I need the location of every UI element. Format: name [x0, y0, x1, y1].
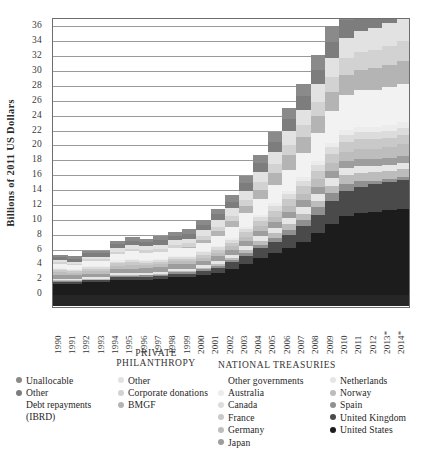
- stacked-column: [139, 239, 154, 296]
- stacked-column: [182, 229, 197, 295]
- legend-header-private: PRIVATE PHILANTHROPY: [110, 348, 202, 368]
- area-segment: [168, 294, 183, 306]
- legend-column-governments-a: Other governmentsAustraliaCanadaFranceGe…: [218, 374, 304, 448]
- area-segment: [139, 294, 154, 306]
- y-tick-30: 30: [2, 65, 42, 75]
- y-tick-18: 18: [2, 154, 42, 164]
- area-segment: [397, 180, 410, 209]
- y-tick-4: 4: [2, 258, 42, 268]
- area-segment: [82, 294, 97, 306]
- area-segment: [325, 92, 340, 111]
- legend-item[interactable]: Other governments: [218, 374, 304, 386]
- stacked-column: [67, 256, 82, 295]
- legend-swatch-icon: [16, 390, 22, 396]
- area-segment: [268, 185, 283, 204]
- area-segment: [239, 176, 254, 183]
- area-segment: [382, 65, 397, 87]
- area-segment: [368, 50, 383, 68]
- area-segment: [368, 149, 383, 159]
- area-segment: [282, 248, 297, 295]
- area-segment: [125, 251, 140, 258]
- legend-item[interactable]: Unallocable: [16, 374, 91, 386]
- stacked-column: [253, 155, 268, 295]
- area-segment: [339, 58, 354, 74]
- area-segment: [354, 52, 369, 69]
- area-segment: [268, 132, 283, 142]
- area-segment: [397, 294, 410, 306]
- legend-item[interactable]: Spain: [330, 399, 406, 411]
- area-segment: [339, 75, 354, 95]
- area-segment: [325, 111, 340, 143]
- legend-item[interactable]: Norway: [330, 386, 406, 398]
- area-segment: [196, 275, 211, 295]
- area-segment: [311, 179, 326, 186]
- legend-item[interactable]: Other: [118, 374, 208, 386]
- stacked-column: [296, 84, 311, 295]
- area-segment: [311, 194, 326, 201]
- area-segment: [239, 213, 254, 226]
- area-segment: [67, 284, 82, 295]
- legend-item-label: Other: [26, 387, 48, 398]
- area-segment: [211, 273, 226, 295]
- legend-item[interactable]: United States: [330, 424, 406, 436]
- area-segment: [296, 137, 311, 153]
- stacked-column: [368, 18, 383, 295]
- area-segment: [296, 153, 311, 178]
- area-segment: [296, 194, 311, 201]
- legend-item[interactable]: United Kingdom: [330, 411, 406, 423]
- y-tick-2: 2: [2, 273, 42, 283]
- area-segment: [368, 28, 383, 50]
- legend-item-label: Spain: [340, 399, 362, 410]
- area-segment: [282, 119, 297, 131]
- legend-item[interactable]: Japan: [218, 436, 304, 448]
- area-segment: [325, 26, 340, 42]
- area-segment: [368, 294, 383, 306]
- area-segment: [368, 68, 383, 90]
- area-segment: [339, 20, 354, 37]
- area-segment: [339, 161, 354, 168]
- legend-item-label: Australia: [228, 387, 264, 398]
- area-segment: [397, 169, 410, 177]
- area-segment: [311, 187, 326, 194]
- area-segment: [354, 166, 369, 173]
- area-segment: [368, 90, 383, 127]
- area-segment: [354, 173, 369, 181]
- area-segment: [282, 235, 297, 248]
- area-segment: [239, 264, 254, 295]
- plot-frame: [52, 18, 410, 308]
- area-segment: [253, 163, 268, 172]
- area-segment: [339, 175, 354, 183]
- area-segment: [382, 210, 397, 295]
- y-tick-12: 12: [2, 199, 42, 209]
- legend-item[interactable]: Germany: [218, 424, 304, 436]
- legend-item[interactable]: Canada: [218, 399, 304, 411]
- area-segment: [182, 294, 197, 306]
- legend-item[interactable]: Other: [16, 386, 91, 398]
- area-segment: [368, 184, 383, 212]
- area-segment: [325, 42, 340, 58]
- legend-header-treasuries-line2: NATIONAL TREASURIES: [214, 360, 340, 370]
- area-segment: [354, 149, 369, 159]
- legend-item-label: Other: [128, 375, 150, 386]
- legend-item-label: Unallocable: [26, 375, 73, 386]
- area-segment: [239, 183, 254, 190]
- area-segment: [296, 125, 311, 137]
- area-segment: [354, 90, 369, 126]
- y-tick-20: 20: [2, 139, 42, 149]
- legend-item-label: Norway: [340, 387, 372, 398]
- area-segment: [397, 128, 410, 135]
- area-segment: [67, 294, 82, 306]
- stacked-column: [196, 220, 211, 295]
- legend-item[interactable]: Netherlands: [330, 374, 406, 386]
- legend-item[interactable]: BMGF: [118, 399, 208, 411]
- area-segment: [282, 294, 297, 306]
- legend-item[interactable]: Australia: [218, 386, 304, 398]
- area-segment: [125, 294, 140, 306]
- stacked-column: [96, 251, 111, 295]
- area-segment: [311, 215, 326, 234]
- area-segment: [182, 277, 197, 295]
- area-segment: [168, 248, 183, 255]
- legend-item[interactable]: Corporate donations: [118, 386, 208, 398]
- legend-item[interactable]: France: [218, 411, 304, 423]
- area-segment: [311, 55, 326, 69]
